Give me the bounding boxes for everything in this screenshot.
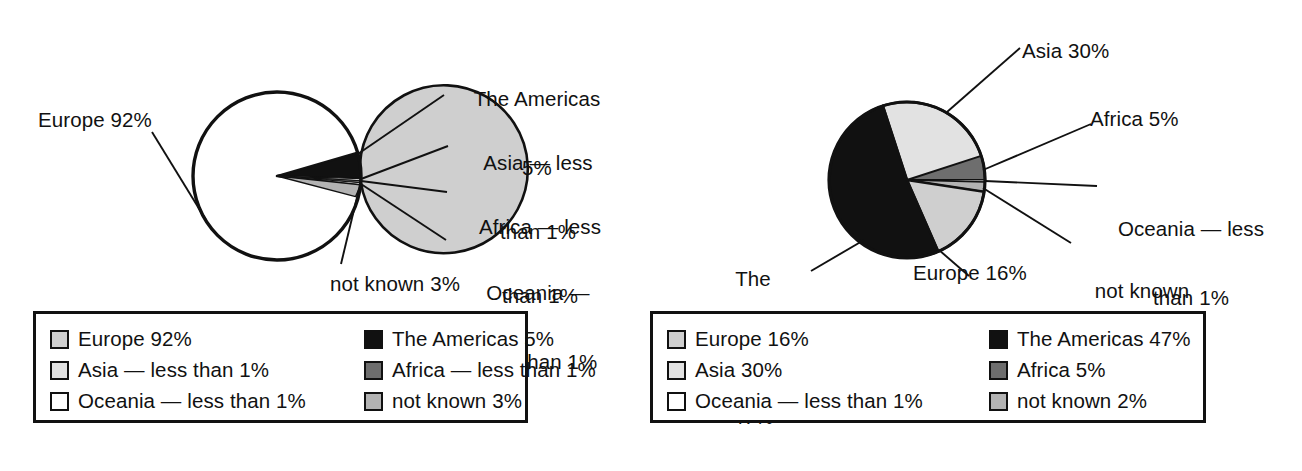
legend-item-not-known[interactable]: not known 2%	[989, 386, 1191, 417]
legend-swatch-asia-icon	[50, 361, 69, 380]
legend-label-europe: Europe 16%	[695, 329, 809, 350]
legend-label-not-known: not known 3%	[392, 391, 522, 412]
left-legend: Europe 92% The Americas 5% Asia — less t…	[33, 311, 528, 423]
leader-oceania	[985, 181, 1097, 186]
legend-label-americas: The Americas 47%	[1017, 329, 1191, 350]
slice-americas	[277, 153, 361, 179]
callout-americas-right-line1: The	[678, 268, 828, 291]
callout-europe-right: Europe 16%	[913, 262, 1027, 285]
right-legend: Europe 16% The Americas 47% Asia 30% Afr…	[650, 311, 1206, 423]
legend-swatch-americas-icon	[989, 330, 1008, 349]
legend-label-asia: Asia — less than 1%	[78, 360, 269, 381]
callout-europe-left: Europe 92%	[38, 109, 152, 132]
legend-label-oceania: Oceania — less than 1%	[78, 391, 306, 412]
legend-label-europe: Europe 92%	[78, 329, 192, 350]
legend-swatch-asia-icon	[667, 361, 686, 380]
legend-label-asia: Asia 30%	[695, 360, 782, 381]
pie-chart-right: Asia 30% Africa 5% Oceania — less than 1…	[651, 0, 1302, 300]
legend-swatch-africa-icon	[364, 361, 383, 380]
legend-label-africa: Africa 5%	[1017, 360, 1106, 381]
callout-oceania-left-line1: Oceania —	[452, 282, 624, 305]
leader-notknown	[983, 188, 1071, 243]
figure-root: Europe 92% The Americas 5% Asia — less t…	[0, 0, 1302, 471]
legend-item-americas[interactable]: The Americas 5%	[364, 324, 596, 355]
legend-label-africa: Africa — less than 1%	[392, 360, 596, 381]
leader-asia	[947, 48, 1020, 112]
leader-africa	[983, 124, 1091, 170]
legend-item-oceania[interactable]: Oceania — less than 1%	[50, 386, 360, 417]
legend-item-europe[interactable]: Europe 16%	[667, 324, 985, 355]
legend-swatch-not-known-icon	[364, 392, 383, 411]
legend-swatch-europe-icon	[50, 330, 69, 349]
legend-label-americas: The Americas 5%	[392, 329, 554, 350]
legend-item-africa[interactable]: Africa 5%	[989, 355, 1191, 386]
legend-item-americas[interactable]: The Americas 47%	[989, 324, 1191, 355]
legend-swatch-americas-icon	[364, 330, 383, 349]
legend-label-oceania: Oceania — less than 1%	[695, 391, 923, 412]
callout-africa-right: Africa 5%	[1090, 108, 1179, 131]
left-legend-grid: Europe 92% The Americas 5% Asia — less t…	[50, 324, 596, 417]
legend-item-not-known[interactable]: not known 3%	[364, 386, 596, 417]
callout-asia-right: Asia 30%	[1022, 40, 1109, 63]
legend-swatch-oceania-icon	[667, 392, 686, 411]
legend-swatch-oceania-icon	[50, 392, 69, 411]
legend-item-asia[interactable]: Asia 30%	[667, 355, 985, 386]
legend-swatch-europe-icon	[667, 330, 686, 349]
callout-not-known-right-line1: not known	[1075, 280, 1209, 303]
legend-swatch-africa-icon	[989, 361, 1008, 380]
legend-item-europe[interactable]: Europe 92%	[50, 324, 360, 355]
legend-item-asia[interactable]: Asia — less than 1%	[50, 355, 360, 386]
right-pie-slices	[829, 102, 985, 258]
legend-item-africa[interactable]: Africa — less than 1%	[364, 355, 596, 386]
legend-item-oceania[interactable]: Oceania — less than 1%	[667, 386, 985, 417]
pie-chart-left: Europe 92% The Americas 5% Asia — less t…	[0, 0, 651, 300]
legend-label-not-known: not known 2%	[1017, 391, 1147, 412]
right-legend-grid: Europe 16% The Americas 47% Asia 30% Afr…	[667, 324, 1191, 417]
legend-swatch-not-known-icon	[989, 392, 1008, 411]
callout-not-known-left: not known 3%	[330, 273, 460, 296]
